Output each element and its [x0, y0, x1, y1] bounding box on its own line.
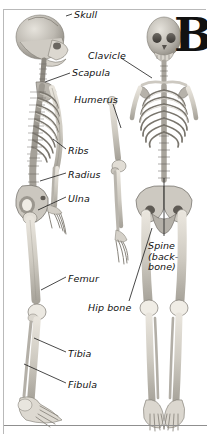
ground-line: [4, 425, 207, 426]
label-humerus: Humerus: [74, 95, 118, 106]
label-ulna: Ulna: [68, 194, 90, 205]
section-letter-b: B: [174, 12, 207, 58]
label-ribs: Ribs: [68, 146, 89, 157]
label-tibia: Tibia: [68, 349, 91, 360]
anterior-skeleton-view: [132, 17, 196, 431]
label-radius: Radius: [68, 170, 101, 181]
lateral-skeleton-view: [16, 15, 68, 427]
skeleton-figure-plate: Skull Clavicle Scapula Humerus Ribs Radi…: [0, 0, 207, 441]
label-hip-bone: Hip bone: [88, 303, 131, 314]
label-spine: Spine (back- bone): [148, 241, 178, 273]
detached-arm-bones: [107, 97, 128, 265]
label-skull: Skull: [74, 10, 97, 21]
label-clavicle: Clavicle: [88, 51, 126, 62]
label-scapula: Scapula: [72, 68, 110, 79]
label-femur: Femur: [68, 274, 99, 285]
label-fibula: Fibula: [68, 380, 97, 391]
